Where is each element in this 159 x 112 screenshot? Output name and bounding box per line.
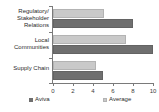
bar-aviva-regulatory (53, 19, 133, 28)
category-label-line: Local (0, 37, 49, 44)
category-axis-tick (49, 58, 52, 59)
value-axis-tick (53, 83, 54, 86)
bar-average-regulatory (53, 9, 104, 18)
value-axis-tick-label: 6 (111, 88, 114, 95)
value-axis-tick (153, 83, 154, 86)
category-axis-tick (49, 83, 52, 84)
value-axis-tick-label: 2 (71, 88, 74, 95)
category-axis-tick (49, 6, 52, 7)
value-axis-tick (133, 83, 134, 86)
category-axis-tick (49, 32, 52, 33)
chart-legend: Aviva Average (0, 95, 159, 108)
legend-label-aviva: Aviva (35, 96, 50, 103)
bar-chart: Regulatory/ Stakeholder Relations Local … (0, 0, 159, 112)
legend-entry-average: Average (103, 96, 131, 103)
category-label-supply-chain: Supply Chain (0, 65, 49, 72)
bar-average-supply-chain (53, 61, 96, 70)
category-label-local-communities: Local Communities (0, 37, 49, 51)
bar-average-local-communities (53, 35, 126, 44)
category-label-line: Relations (0, 22, 49, 29)
bar-aviva-local-communities (53, 45, 153, 54)
value-axis-tick (113, 83, 114, 86)
value-axis-tick-label: 4 (91, 88, 94, 95)
bar-aviva-supply-chain (53, 71, 103, 80)
dark-gray-square-icon (29, 98, 33, 102)
category-label-line: Stakeholder (0, 15, 49, 22)
category-label-line: Supply Chain (0, 65, 49, 72)
bar-group-regulatory-stakeholder-relations (53, 9, 152, 32)
plot-area: 0246810 (52, 6, 152, 83)
legend-entry-aviva: Aviva (29, 96, 50, 103)
bar-group-local-communities (53, 35, 152, 58)
value-axis-tick-label: 8 (131, 88, 134, 95)
category-label-line: Communities (0, 44, 49, 51)
light-gray-square-icon (103, 98, 107, 102)
category-label-line: Regulatory/ (0, 8, 49, 15)
value-axis-tick (93, 83, 94, 86)
legend-label-average: Average (109, 96, 131, 103)
bar-group-supply-chain (53, 61, 152, 84)
value-axis-tick-label: 0 (51, 88, 54, 95)
category-label-regulatory-stakeholder-relations: Regulatory/ Stakeholder Relations (0, 8, 49, 29)
value-axis-tick-label: 10 (150, 88, 157, 95)
value-axis-tick (73, 83, 74, 86)
